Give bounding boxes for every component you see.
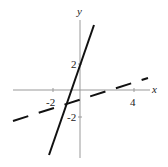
y-tick-label-2: 2 <box>71 58 77 70</box>
x-tick-label-4: 4 <box>130 96 136 108</box>
graph: -2 4 2 -2 x y <box>0 0 168 167</box>
y-tick-label-neg2: -2 <box>67 111 76 123</box>
y-axis-label: y <box>76 5 82 17</box>
x-tick-label-neg2: -2 <box>46 96 55 108</box>
x-axis-label: x <box>151 83 157 95</box>
